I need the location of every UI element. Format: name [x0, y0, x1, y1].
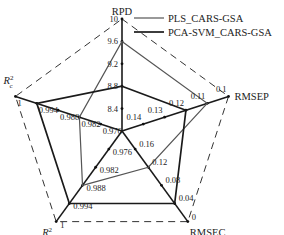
legend-label: PLS_CARS-GSA: [168, 13, 244, 24]
tick-label-rmsec: 0.12: [152, 157, 167, 167]
tick-label-rc2: 1: [17, 98, 21, 108]
tick-label-rp2: 1: [60, 220, 64, 230]
tick-mark: [55, 220, 58, 223]
tick-label-rmsep: 0.14: [126, 112, 142, 122]
radar-chart: 8.48.89.29.6100.140.130.120.110.10.160.1…: [0, 0, 284, 235]
tick-label-rpd: 9.6: [107, 36, 118, 46]
tick-label-rmsec: 0.04: [179, 193, 195, 203]
tick-label-rpd: 9.2: [107, 59, 118, 69]
tick-mark: [134, 148, 137, 151]
tick-mark: [142, 123, 145, 126]
tick-mark: [14, 95, 17, 98]
tick-mark: [107, 148, 110, 151]
axis-label-rmsep: RMSEP: [235, 91, 270, 102]
tick-label-rp2: 0.988: [87, 183, 106, 193]
axis-label-rmsec: RMSEC: [190, 227, 226, 235]
tick-mark: [121, 18, 124, 21]
legend: PLS_CARS-GSAPCA-SVM_CARS-GSA: [134, 13, 272, 38]
tick-label-rc2: 0.982: [81, 119, 100, 129]
tick-label-rpd: 8.4: [107, 104, 118, 114]
tick-label-rmsep: 0.1: [216, 84, 227, 94]
tick-mark: [227, 95, 230, 98]
tick-label-rc2: 0.976: [103, 126, 122, 136]
legend-label: PCA-SVM_CARS-GSA: [168, 27, 272, 38]
tick-mark: [186, 220, 189, 223]
tick-label-rmsec: 0.08: [165, 175, 180, 185]
axis-label-rp2: R2p: [41, 226, 52, 235]
tick-mark: [163, 116, 166, 119]
tick-label-rpd: 8.8: [107, 81, 118, 91]
axis-label-rpd: RPD: [112, 6, 133, 17]
tick-mark: [121, 107, 124, 110]
tick-mark: [121, 62, 124, 65]
tick-mark: [160, 184, 163, 187]
axis-label-rc2: R2c: [3, 74, 14, 90]
tick-label-rmsec: 0.16: [139, 139, 154, 149]
tick-label-rmsep: 0.11: [191, 91, 206, 101]
tick-label-rc2: 0.994: [39, 105, 59, 115]
tick-label-rmsep: 0.12: [169, 98, 184, 108]
tick-label-rmsec: 0: [192, 212, 196, 222]
tick-label-rp2: 0.982: [100, 165, 119, 175]
tick-label-rmsep: 0.13: [148, 105, 163, 115]
tick-label-rc2: 0.988: [60, 112, 79, 122]
tick-label-rp2: 0.976: [113, 147, 132, 157]
tick-mark: [94, 166, 97, 169]
tick-label-rp2: 0.994: [73, 201, 93, 211]
